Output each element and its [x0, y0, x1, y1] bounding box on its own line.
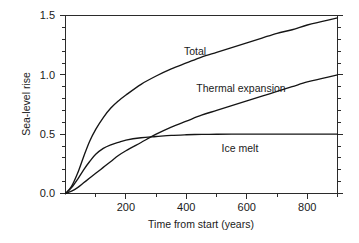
- x-tick-label-2: 600: [238, 201, 256, 213]
- x-tick-label-1: 400: [177, 201, 195, 213]
- plot-frame: [66, 16, 338, 194]
- series-label-ice-melt: Ice melt: [222, 142, 259, 154]
- series-label-thermal-expansion: Thermal expansion: [196, 82, 285, 94]
- series-label-total: Total: [184, 45, 206, 57]
- right-axis-ticks: [338, 16, 344, 194]
- y-tick-label-0: 0.0: [40, 187, 55, 199]
- sea-level-rise-line-chart: 0.0 0.5 1.0 1.5: [0, 0, 359, 243]
- y-tick-label-1: 0.5: [40, 128, 55, 140]
- y-tick-label-2: 1.0: [40, 69, 55, 81]
- y-tick-label-3: 1.5: [40, 9, 55, 21]
- x-axis-ticks: [96, 194, 338, 200]
- series-line-ice-melt: [66, 134, 338, 193]
- x-tick-label-3: 800: [298, 201, 316, 213]
- chart-figure: 0.0 0.5 1.0 1.5: [0, 0, 359, 243]
- x-axis-title: Time from start (years): [148, 218, 254, 230]
- y-axis-ticks: [60, 16, 66, 194]
- y-axis-title: Sea-level rise: [20, 72, 32, 136]
- x-tick-label-0: 200: [117, 201, 135, 213]
